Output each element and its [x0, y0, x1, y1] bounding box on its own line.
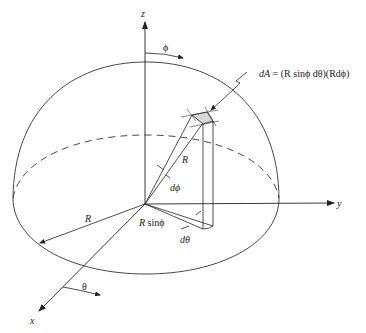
rsinphi-base-arc [203, 226, 213, 229]
radius-upper-label: R [181, 154, 188, 165]
dphi-label: dϕ [170, 182, 180, 193]
hemisphere-diagram: z y x ϕ θ R R dϕ R sinϕ dθ dA = (R sinϕ … [0, 0, 366, 333]
theta-label: θ [82, 281, 87, 292]
phi-label: ϕ [163, 42, 168, 53]
y-axis [145, 203, 334, 204]
dphi-tick-2 [166, 175, 170, 178]
x-axis [39, 204, 145, 311]
y-axis-label: y [336, 198, 342, 209]
dphi-tick-1 [157, 165, 164, 170]
da-leader-line [211, 72, 247, 110]
dtheta-label: dθ [180, 234, 190, 245]
dtheta-tick-1 [196, 211, 201, 215]
hemisphere-base-front [13, 200, 279, 274]
dashed-equator [13, 135, 279, 198]
da-formula: dA = (R sinϕ dθ)(Rdϕ) [259, 68, 349, 80]
rsinphi-label: R sinϕ [138, 217, 165, 228]
z-axis-label: z [140, 8, 145, 19]
x-axis-label: x [29, 315, 35, 326]
area-element-patch [192, 112, 213, 124]
radius-left-label: R [84, 213, 91, 224]
dtheta-tick-2 [181, 226, 189, 229]
phi-arrow [145, 53, 183, 58]
radius-left-line [40, 204, 145, 243]
